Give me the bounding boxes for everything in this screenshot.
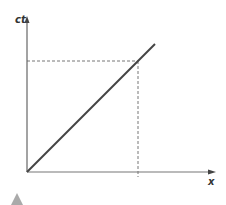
worldline (27, 44, 155, 172)
x-axis-arrow-icon (208, 170, 216, 175)
gray-triangle-icon (11, 193, 23, 205)
spacetime-diagram: ct x (0, 0, 226, 205)
ct-axis-label: ct (15, 14, 27, 25)
x-axis-label: x (207, 176, 215, 187)
